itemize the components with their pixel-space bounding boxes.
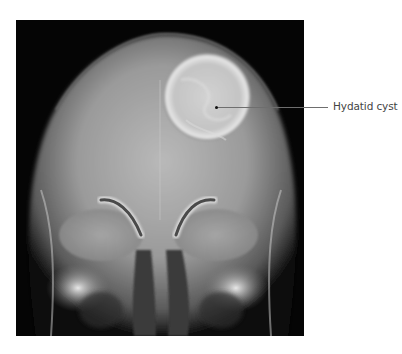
annotation-label-hydatid-cyst: Hydatid cyst	[333, 100, 398, 112]
annotation-pointer-dot	[215, 106, 218, 109]
skull-xray-image	[16, 20, 304, 336]
skull-xray-drawing	[16, 20, 304, 336]
annotation-leader-line	[217, 107, 328, 108]
